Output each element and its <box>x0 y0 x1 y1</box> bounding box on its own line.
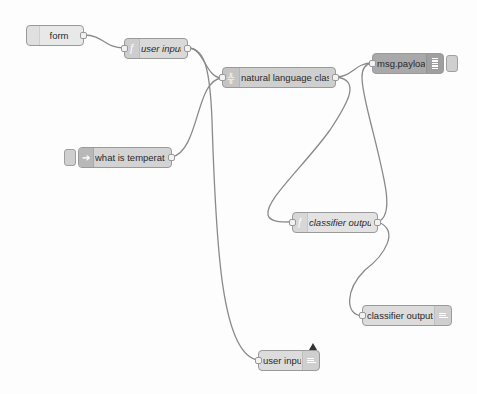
input-port[interactable] <box>255 357 262 364</box>
wire-user-input-to-nlc <box>188 48 222 78</box>
node-label: natural language classifier <box>241 72 329 83</box>
flow-canvas[interactable]: form ƒ user input ╬ natural language cla… <box>0 0 477 394</box>
node-msg-payload-debug[interactable]: msg.payload <box>372 53 444 74</box>
input-port[interactable] <box>369 60 376 67</box>
node-classifier-output-text[interactable]: classifier output <box>362 305 452 326</box>
wire-classifier-fn-to-ui <box>350 222 389 316</box>
inject-button[interactable] <box>64 149 76 166</box>
globe-icon <box>27 26 40 45</box>
node-label: classifier output <box>309 217 371 228</box>
node-label: user input <box>141 43 181 54</box>
wire-nlc-to-classifier-fn <box>268 77 350 222</box>
wire-form-to-user-input <box>84 35 124 48</box>
node-what-is-temperature-inject[interactable]: ➔ what is temperature <box>78 147 172 168</box>
inject-icon: ➔ <box>79 148 94 167</box>
node-label: msg.payload <box>377 58 425 69</box>
wire-user-input-to-ui <box>188 48 258 360</box>
node-user-input-function[interactable]: ƒ user input <box>124 38 188 59</box>
output-port[interactable] <box>184 45 191 52</box>
debug-toggle-button[interactable] <box>446 55 458 72</box>
wire-nlc-to-debug <box>336 63 372 77</box>
text-icon <box>434 306 451 325</box>
node-label: classifier output <box>367 310 433 321</box>
node-natural-language-classifier[interactable]: ╬ natural language classifier <box>222 67 336 88</box>
node-form[interactable]: form <box>26 25 84 46</box>
node-label: user input <box>263 355 301 366</box>
node-user-input-text[interactable]: user input <box>258 350 320 371</box>
changed-indicator-icon <box>309 343 317 350</box>
debug-icon <box>426 54 443 73</box>
input-port[interactable] <box>359 312 366 319</box>
text-icon <box>302 351 319 370</box>
input-port[interactable] <box>289 219 296 226</box>
node-classifier-output-function[interactable]: ƒ classifier output <box>292 212 378 233</box>
output-port[interactable] <box>168 154 175 161</box>
input-port[interactable] <box>219 74 226 81</box>
output-port[interactable] <box>332 74 339 81</box>
output-port[interactable] <box>374 219 381 226</box>
output-port[interactable] <box>80 32 87 39</box>
wire-temp-to-nlc <box>172 78 222 157</box>
input-port[interactable] <box>121 45 128 52</box>
wire-classifier-fn-to-debug <box>362 63 387 222</box>
node-label: form <box>41 30 77 41</box>
node-label: what is temperature <box>95 152 165 163</box>
